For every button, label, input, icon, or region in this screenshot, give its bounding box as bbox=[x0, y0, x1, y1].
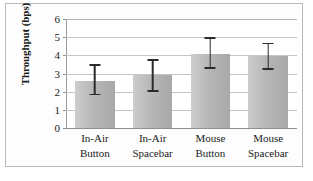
error-bar-cap-lower bbox=[205, 67, 216, 69]
error-bar-line bbox=[152, 59, 154, 92]
y-tick-label-3: 3 bbox=[55, 68, 61, 80]
error-bar-cap-lower bbox=[147, 90, 158, 92]
y-tick-label-2: 2 bbox=[55, 86, 61, 98]
error-bar-cap-upper bbox=[89, 64, 100, 66]
x-axis-labels: In-AirButtonIn-AirSpacebarMouseButtonMou… bbox=[66, 131, 297, 165]
error-bar-cap-upper bbox=[263, 43, 274, 45]
error-bar bbox=[147, 59, 158, 92]
error-bar-line bbox=[267, 43, 269, 70]
y-axis-title: Throughput (bps) bbox=[19, 0, 31, 99]
bar-group bbox=[182, 19, 240, 128]
y-tick-label-1: 1 bbox=[55, 104, 61, 116]
bar-group bbox=[124, 19, 182, 128]
x-axis-label-mouse-spacebar: MouseSpacebar bbox=[239, 131, 297, 161]
error-bar-cap-upper bbox=[147, 59, 158, 61]
error-bar bbox=[263, 43, 274, 70]
figure: Throughput (bps) 0123456 In-AirButtonIn-… bbox=[0, 0, 313, 181]
x-axis-label-mouse-button: MouseButton bbox=[182, 131, 240, 161]
gridline-0 bbox=[66, 128, 297, 129]
error-bar-line bbox=[94, 64, 96, 95]
error-bar-line bbox=[210, 37, 212, 69]
y-tick-label-6: 6 bbox=[55, 13, 61, 25]
error-bar bbox=[89, 64, 100, 95]
x-axis-label-in-air-button: In-AirButton bbox=[66, 131, 124, 161]
plot-area: 0123456 bbox=[66, 19, 297, 128]
y-tick-label-0: 0 bbox=[55, 122, 61, 134]
bar-group bbox=[66, 19, 124, 128]
error-bar-cap-lower bbox=[263, 68, 274, 70]
x-axis-label-in-air-spacebar: In-AirSpacebar bbox=[124, 131, 182, 161]
y-tick-label-5: 5 bbox=[55, 31, 61, 43]
y-tick-mark-0 bbox=[63, 128, 66, 129]
error-bar-cap-upper bbox=[205, 37, 216, 39]
y-tick-label-4: 4 bbox=[55, 49, 61, 61]
error-bar-cap-lower bbox=[89, 94, 100, 96]
bar-group bbox=[239, 19, 297, 128]
error-bar bbox=[205, 37, 216, 69]
